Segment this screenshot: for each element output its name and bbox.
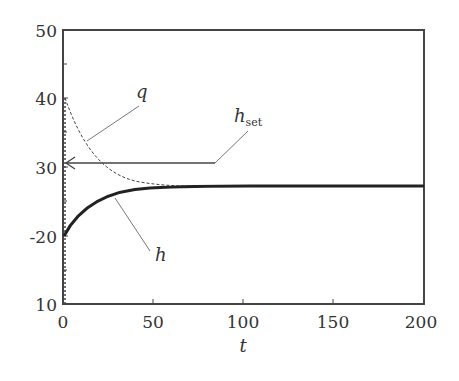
y-tick-40: 40	[35, 89, 57, 109]
y-tick-20: -20	[30, 227, 57, 247]
x-tick-200: 200	[405, 312, 437, 332]
x-axis-label: t	[239, 335, 247, 356]
x-tick-50: 50	[142, 312, 164, 332]
x-tick-100: 100	[227, 312, 259, 332]
h-series-line	[64, 186, 424, 236]
x-tick-150: 150	[317, 312, 349, 332]
y-tick-50: 50	[35, 21, 57, 41]
plot-frame	[63, 30, 424, 304]
hset-leader-line	[215, 131, 248, 163]
h-leader-line	[115, 198, 150, 251]
h-annotation: h	[155, 244, 167, 265]
hset-annotation: hset	[234, 105, 263, 129]
y-tick-10: 10	[35, 295, 57, 315]
x-tick-0: 0	[58, 312, 69, 332]
y-tick-30: 30	[35, 158, 57, 178]
q-leader-line	[87, 106, 139, 141]
q-annotation: q	[136, 81, 148, 102]
chart-canvas: 50 40 30 -20 10 0 50 100 150 200 t q hse…	[0, 0, 459, 381]
